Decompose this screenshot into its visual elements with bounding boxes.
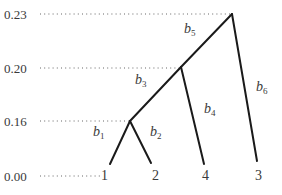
leaf-label-2: 2 [152,169,159,183]
branch-label-b2-name: b [150,124,157,139]
branch-label-b4: b4 [204,102,216,118]
branch-label-b1-sub: 1 [100,131,105,141]
tree-diagram [0,0,282,195]
branch-label-b1-name: b [93,124,100,139]
branch-label-b3-sub: 3 [142,79,147,89]
branch-label-b4-sub: 4 [211,108,216,118]
branch-label-b2-sub: 2 [157,131,162,141]
branch-b6 [232,14,257,161]
branch-label-b6: b6 [256,80,268,96]
branch-label-b6-name: b [256,79,263,94]
branch-b1 [110,121,130,164]
branch-label-b3: b3 [135,73,147,89]
leaf-label-1: 1 [101,169,108,183]
leaf-label-3: 3 [255,169,262,183]
branch-b2 [130,121,151,163]
branch-label-b5-name: b [184,21,191,36]
branch-label-b1: b1 [93,125,105,141]
branch-b4 [181,67,204,164]
branch-label-b5: b5 [184,22,196,38]
y-tick-label-000: 0.00 [4,170,27,183]
y-tick-label-023: 0.23 [4,8,27,21]
y-tick-label-020: 0.20 [4,62,27,75]
branch-label-b2: b2 [150,125,162,141]
branch-label-b4-name: b [204,101,211,116]
branch-label-b3-name: b [135,72,142,87]
branch-label-b6-sub: 6 [263,86,268,96]
branch-label-b5-sub: 5 [191,28,196,38]
leaf-label-4: 4 [202,169,209,183]
y-tick-label-016: 0.16 [4,115,27,128]
